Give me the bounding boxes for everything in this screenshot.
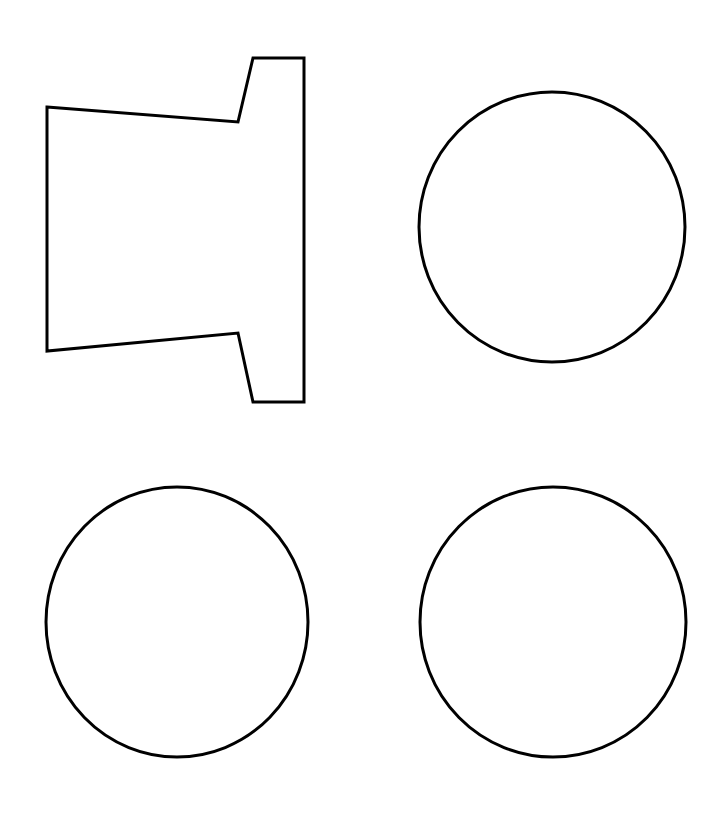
circle-bottom-right bbox=[420, 487, 686, 757]
drawing-canvas bbox=[0, 0, 716, 832]
flanged-trapezoid-shape bbox=[47, 58, 304, 402]
circle-bottom-left bbox=[46, 487, 308, 757]
circle-top-right bbox=[419, 92, 685, 362]
